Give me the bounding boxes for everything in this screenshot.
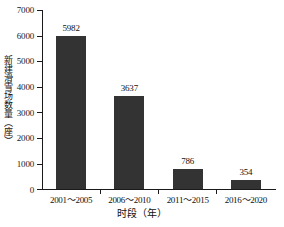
plot-area — [42, 10, 275, 189]
bar-value-label-2001-2005: 5982 — [51, 24, 91, 33]
x-tick-mark-1 — [100, 190, 101, 194]
x-category-label-0: 2001～2005 — [41, 195, 101, 205]
x-category-label-3: 2016～2020 — [216, 195, 276, 205]
y-tick-label-3000: 3000 — [0, 109, 34, 118]
y-tick-label-4000: 4000 — [0, 83, 34, 92]
y-tick-label-7000: 7000 — [0, 6, 34, 15]
bar-value-label-2016-2020: 354 — [226, 168, 266, 177]
bar-value-label-2011-2015: 786 — [168, 157, 208, 166]
y-tick-label-0: 0 — [0, 186, 34, 195]
y-tick-label-5000: 5000 — [0, 57, 34, 66]
bar-2006-2010 — [114, 96, 144, 189]
x-category-label-2: 2011～2015 — [158, 195, 218, 205]
x-tick-mark-2 — [158, 190, 159, 194]
x-tick-mark-3 — [216, 190, 217, 194]
bar-2016-2020 — [231, 180, 261, 189]
y-tick-label-6000: 6000 — [0, 32, 34, 41]
bar-2001-2005 — [56, 36, 86, 189]
x-category-label-1: 2006～2010 — [99, 195, 159, 205]
bar-2011-2015 — [173, 169, 203, 189]
y-tick-label-1000: 1000 — [0, 160, 34, 169]
bar-value-label-2006-2010: 3637 — [109, 84, 149, 93]
chart-figure: 新建滑雪场数量（座） 0 1000 2000 3000 4000 5000 60… — [0, 0, 284, 227]
x-axis-line — [42, 189, 276, 190]
x-axis-title: 时段（年） — [0, 208, 284, 220]
y-tick-label-2000: 2000 — [0, 134, 34, 143]
